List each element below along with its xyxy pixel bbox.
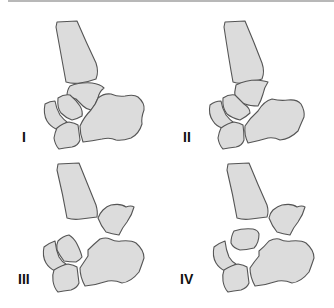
ankle-diagram: I II III IV bbox=[0, 0, 334, 308]
calcaneus bbox=[250, 239, 314, 286]
panel-label: IV bbox=[180, 271, 194, 287]
panel-iv: IV bbox=[180, 163, 314, 292]
panel-ii: II bbox=[183, 21, 304, 149]
panel-iii: III bbox=[18, 163, 144, 292]
tibia bbox=[227, 163, 268, 219]
panel-label: II bbox=[183, 129, 191, 145]
fibula-fragment bbox=[269, 204, 305, 235]
calcaneus bbox=[80, 238, 144, 286]
tibia bbox=[57, 163, 97, 219]
cuboid bbox=[53, 264, 79, 292]
panel-i: I bbox=[22, 21, 144, 149]
cuboid bbox=[223, 264, 249, 292]
talus-dislocated bbox=[231, 229, 259, 250]
panel-label: I bbox=[22, 129, 26, 145]
fibula-fragment bbox=[98, 204, 134, 235]
tibia bbox=[56, 21, 98, 83]
panel-label: III bbox=[18, 271, 30, 287]
tibia bbox=[224, 21, 264, 83]
navicular bbox=[57, 235, 82, 262]
